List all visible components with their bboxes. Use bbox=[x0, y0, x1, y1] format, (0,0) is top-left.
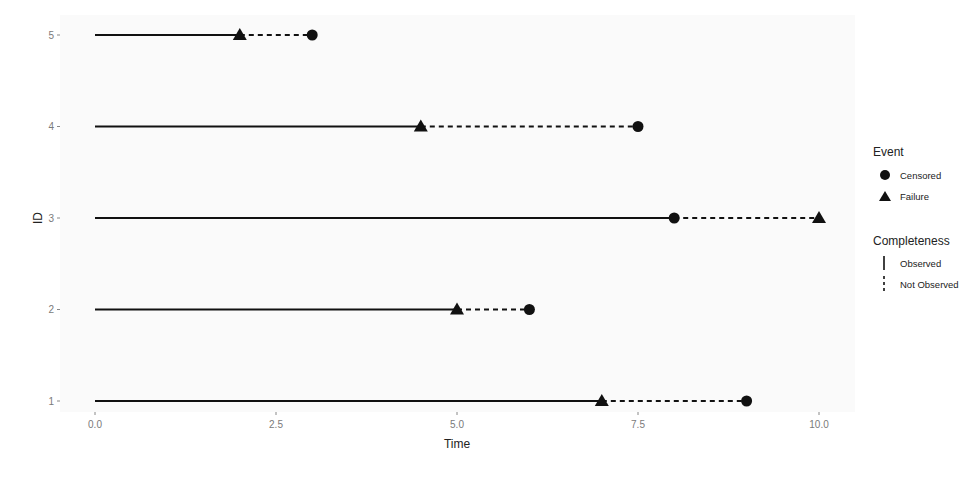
x-tick-label: 7.5 bbox=[631, 419, 645, 430]
circle-icon bbox=[880, 170, 890, 180]
censored-circle-icon bbox=[307, 30, 318, 41]
legend-event-title: Event bbox=[873, 145, 904, 159]
legend-observed-label: Observed bbox=[900, 258, 941, 269]
y-tick-label: 4 bbox=[48, 121, 54, 132]
legend: Event Censored Failure Completeness Obse… bbox=[873, 145, 959, 292]
y-tick-label: 2 bbox=[48, 304, 54, 315]
censored-circle-icon bbox=[633, 121, 644, 132]
x-tick-label: 10.0 bbox=[809, 419, 829, 430]
y-axis-title: ID bbox=[31, 212, 45, 224]
y-tick-label: 1 bbox=[48, 396, 54, 407]
legend-censored-label: Censored bbox=[900, 170, 941, 181]
legend-completeness-title: Completeness bbox=[873, 234, 950, 248]
legend-not-observed-label: Not Observed bbox=[900, 279, 959, 290]
legend-failure-label: Failure bbox=[900, 191, 929, 202]
survival-chart: 0.02.55.07.510.0 12345 Time ID Event Cen… bbox=[0, 0, 974, 485]
censored-circle-icon bbox=[669, 213, 680, 224]
x-tick-label: 5.0 bbox=[450, 419, 464, 430]
x-axis-title: Time bbox=[444, 437, 471, 451]
x-axis: 0.02.55.07.510.0 bbox=[88, 412, 829, 430]
x-tick-label: 2.5 bbox=[269, 419, 283, 430]
x-tick-label: 0.0 bbox=[88, 419, 102, 430]
y-axis: 12345 bbox=[48, 30, 60, 407]
plot-panel bbox=[60, 15, 855, 412]
triangle-icon bbox=[879, 191, 891, 201]
censored-circle-icon bbox=[741, 396, 752, 407]
censored-circle-icon bbox=[524, 304, 535, 315]
y-tick-label: 5 bbox=[48, 30, 54, 41]
y-tick-label: 3 bbox=[48, 213, 54, 224]
